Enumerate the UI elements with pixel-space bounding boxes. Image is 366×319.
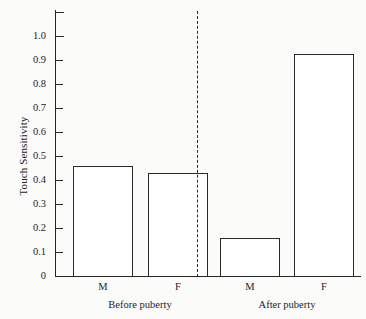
bar-after-puberty-f <box>294 54 354 276</box>
plot-area <box>0 0 366 319</box>
bar-before-puberty-m <box>73 166 133 276</box>
bar-after-puberty-m <box>220 238 280 276</box>
group-label-after-puberty: After puberty <box>212 299 362 310</box>
x-tick-label-after-m: M <box>230 281 270 292</box>
x-tick-label-after-f: F <box>304 281 344 292</box>
bar-before-puberty-f <box>148 173 208 276</box>
x-tick-label-before-m: M <box>83 281 123 292</box>
bar-chart: Touch Sensitivity 1.0 0.9 0.8 0.7 0.6 0.… <box>0 0 366 319</box>
group-divider-line <box>197 11 198 277</box>
x-tick-label-before-f: F <box>158 281 198 292</box>
group-label-before-puberty: Before puberty <box>65 299 215 310</box>
